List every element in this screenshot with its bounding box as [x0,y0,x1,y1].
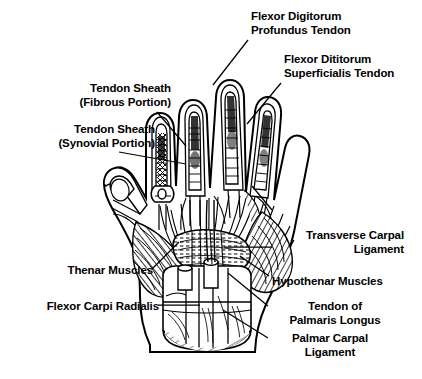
label-tendon-sheath-fibrous-portion: Tendon Sheath (Fibrous Portion) [56,82,171,109]
label-palmar-carpal-ligament: Palmar Carpal Ligament [270,332,390,359]
leader-flexor-digitorum-profundus [213,40,248,85]
label-flexor-carpi-radialis: Flexor Carpi Radialis [29,300,159,314]
label-tendon-of-palmaris-longus: Tendon of Palmaris Longus [270,300,400,327]
label-transverse-carpal-ligament: Transverse Carpal Ligament [274,229,404,256]
label-tendon-sheath-synovial-portion: Tendon Sheath (Synovial Portion) [15,123,155,150]
label-thenar-muscles: Thenar Muscles [48,264,153,278]
hand-anatomy-figure: Flexor Digitorum Profundus Tendon Flexor… [0,0,422,379]
label-flexor-digitorum-profundus-tendon: Flexor Digitorum Profundus Tendon [251,10,351,37]
label-hypothenar-muscles: Hypothenar Muscles [272,275,383,289]
label-flexor-digitorum-superficialis-tendon: Flexor Dititorum Superficialis Tendon [284,53,394,80]
